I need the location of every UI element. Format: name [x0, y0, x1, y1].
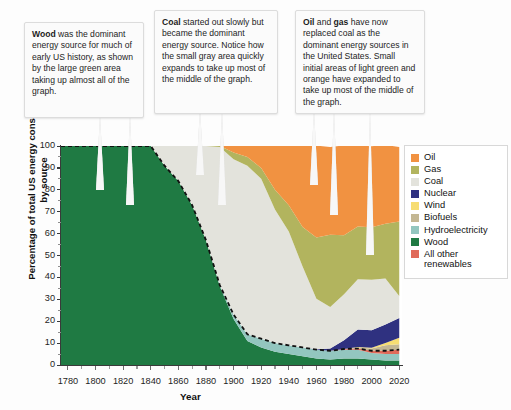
- callout-oilgas-lead2: gas: [334, 17, 349, 27]
- legend-item-label: Coal: [424, 176, 443, 187]
- callout-oilgas-lead: Oil: [303, 17, 314, 27]
- legend-swatch-icon: [411, 238, 419, 246]
- x-axis-line: [60, 365, 403, 366]
- callout-tail-coal-b: [218, 110, 226, 205]
- callout-oil-gas: Oil and gas have now replaced coal as th…: [295, 10, 425, 114]
- x-axis-minor-tick: [219, 366, 220, 369]
- legend-swatch-icon: [411, 190, 419, 198]
- x-axis-tick: [399, 366, 400, 370]
- x-axis-tick-label: 1780: [53, 376, 83, 386]
- x-axis-minor-tick: [357, 366, 358, 369]
- legend-item-label: Nuclear: [424, 188, 456, 199]
- x-axis-tick-label: 2000: [357, 376, 387, 386]
- x-axis-tick: [233, 366, 234, 370]
- x-axis-tick-label: 2020: [384, 376, 414, 386]
- plot-area: [61, 146, 402, 365]
- x-axis-tick-label: 1900: [219, 376, 249, 386]
- x-axis-tick-label: 1840: [136, 376, 166, 386]
- legend-swatch-icon: [411, 202, 419, 210]
- legend-item[interactable]: Nuclear: [411, 188, 503, 199]
- y-axis-minor-tick: [58, 266, 61, 267]
- x-axis-tick: [288, 366, 289, 370]
- y-axis-tick: [57, 277, 61, 278]
- y-axis-tick-label: 0: [15, 359, 55, 369]
- legend-item-label: All other renewables: [424, 249, 472, 270]
- x-axis-tick-label: 1860: [163, 376, 193, 386]
- legend-swatch-icon: [411, 154, 419, 162]
- callout-wood-text: was the dominant energy source for much …: [32, 29, 133, 96]
- y-axis-minor-tick: [58, 178, 61, 179]
- y-axis-minor-tick: [58, 156, 61, 157]
- legend-item[interactable]: All other renewables: [411, 249, 503, 270]
- x-axis-tick: [178, 366, 179, 370]
- legend-item[interactable]: Gas: [411, 164, 503, 175]
- x-axis-minor-tick: [274, 366, 275, 369]
- legend-swatch-icon: [411, 214, 419, 222]
- legend-swatch-icon: [411, 178, 419, 186]
- callout-wood: Wood was the dominant energy source for …: [24, 22, 144, 118]
- legend-swatch-icon: [411, 250, 419, 258]
- y-axis-tick: [57, 233, 61, 234]
- y-axis-minor-tick: [58, 288, 61, 289]
- y-axis-tick-label: 20: [15, 315, 55, 325]
- legend-item[interactable]: Hydroelectricity: [411, 225, 503, 236]
- x-axis-minor-tick: [164, 366, 165, 369]
- chart-legend: OilGasCoalNuclearWindBiofuelsHydroelectr…: [404, 145, 508, 279]
- x-axis-tick-label: 1920: [246, 376, 276, 386]
- legend-item-label: Oil: [424, 152, 435, 163]
- x-axis-tick: [67, 366, 68, 370]
- x-axis-tick-label: 1980: [329, 376, 359, 386]
- stacked-area-svg: [61, 146, 402, 365]
- callout-tail-wood-a: [96, 115, 104, 190]
- x-axis-tick: [205, 366, 206, 370]
- x-axis-minor-tick: [247, 366, 248, 369]
- x-axis-minor-tick: [385, 366, 386, 369]
- x-axis-tick-label: 1880: [191, 376, 221, 386]
- x-axis-title: Year: [180, 391, 201, 402]
- callout-tail-wood-b: [126, 115, 134, 205]
- x-axis-minor-tick: [330, 366, 331, 369]
- y-axis-minor-tick: [58, 310, 61, 311]
- y-axis-tick: [57, 365, 61, 366]
- legend-item[interactable]: Wood: [411, 237, 503, 248]
- legend-item[interactable]: Oil: [411, 152, 503, 163]
- legend-item[interactable]: Wind: [411, 200, 503, 211]
- y-axis-tick-label: 10: [15, 337, 55, 347]
- y-axis-tick: [57, 167, 61, 168]
- y-axis-minor-tick: [58, 244, 61, 245]
- callout-tail-coal-a: [196, 110, 204, 175]
- y-axis-tick: [57, 211, 61, 212]
- energy-sources-stacked-area-figure: Wood was the dominant energy source for …: [0, 0, 511, 410]
- x-axis-minor-tick: [136, 366, 137, 369]
- x-axis-tick: [261, 366, 262, 370]
- x-axis-minor-tick: [81, 366, 82, 369]
- x-axis-tick-label: 1960: [301, 376, 331, 386]
- y-axis-tick: [57, 343, 61, 344]
- legend-item-label: Hydroelectricity: [424, 225, 488, 236]
- x-axis-tick-label: 1940: [274, 376, 304, 386]
- x-axis-minor-tick: [109, 366, 110, 369]
- x-axis-tick: [150, 366, 151, 370]
- legend-item-label: Gas: [424, 164, 441, 175]
- callout-wood-lead: Wood: [32, 29, 56, 39]
- callout-coal-text: started out slowly but became the domina…: [162, 17, 265, 84]
- x-axis-tick: [371, 366, 372, 370]
- callout-tail-oilgas-c: [366, 110, 374, 255]
- callout-coal-lead: Coal: [162, 17, 181, 27]
- y-axis-tick: [57, 189, 61, 190]
- legend-item[interactable]: Coal: [411, 176, 503, 187]
- y-axis-tick: [57, 146, 61, 147]
- y-axis-tick: [57, 255, 61, 256]
- x-axis-tick: [123, 366, 124, 370]
- legend-item[interactable]: Biofuels: [411, 212, 503, 223]
- legend-item-label: Biofuels: [424, 212, 457, 223]
- callout-tail-oilgas-b: [330, 110, 338, 215]
- x-axis-tick: [316, 366, 317, 370]
- callout-oilgas-text: have now replaced coal as the dominant e…: [303, 17, 415, 107]
- y-axis-minor-tick: [58, 200, 61, 201]
- y-axis-tick: [57, 321, 61, 322]
- x-axis-tick: [344, 366, 345, 370]
- callout-coal: Coal started out slowly but became the d…: [154, 10, 278, 114]
- legend-item-label: Wind: [424, 200, 445, 211]
- y-axis-tick: [57, 299, 61, 300]
